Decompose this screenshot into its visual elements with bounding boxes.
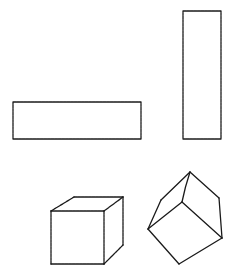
vertical-rectangle	[183, 11, 221, 139]
upright-cube	[51, 197, 123, 264]
tilted-cube	[148, 172, 222, 264]
horizontal-rectangle	[13, 102, 141, 139]
shapes-layer	[13, 11, 222, 264]
drawing-canvas	[0, 0, 234, 274]
